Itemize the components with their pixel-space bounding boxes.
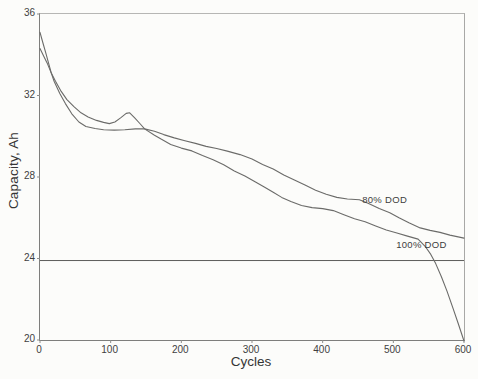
capacity-line-chart: 80% DOD100% DOD [40, 14, 464, 340]
y-tick-label: 20 [4, 333, 35, 344]
series-line-80-dod [40, 32, 464, 238]
y-tick-label: 24 [4, 252, 35, 263]
x-axis-title: Cycles [39, 354, 463, 369]
y-tick-label: 32 [4, 89, 35, 100]
y-tick-label: 36 [4, 7, 35, 18]
plot-area: 80% DOD100% DOD [39, 13, 465, 341]
series-annotation-100-dod: 100% DOD [396, 239, 446, 250]
chart-figure: Capacity, Ah 80% DOD100% DOD 2024283236 … [0, 0, 478, 379]
y-tick-label: 28 [4, 170, 35, 181]
series-annotation-80-dod: 80% DOD [362, 194, 407, 205]
